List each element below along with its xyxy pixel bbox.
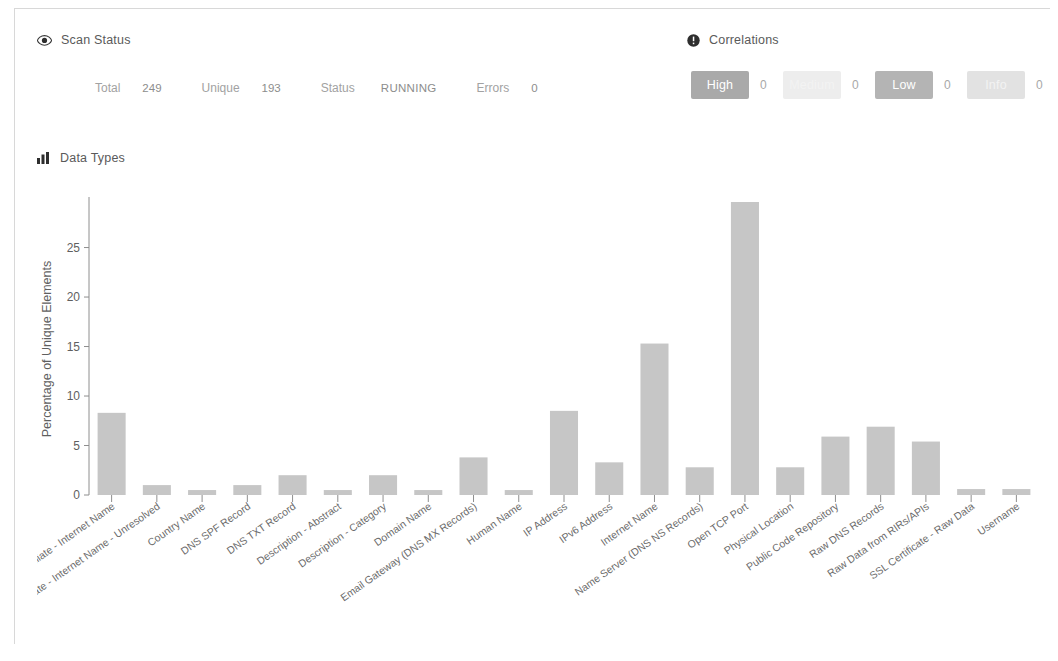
correlation-high-badge[interactable]: High bbox=[691, 71, 749, 99]
bar bbox=[414, 490, 442, 495]
correlations-badges: High 0 Medium 0 Low 0 Info 0 bbox=[691, 71, 1046, 99]
stat-errors-label: Errors bbox=[477, 81, 510, 95]
correlations-title: Correlations bbox=[709, 33, 779, 47]
bar bbox=[731, 202, 759, 495]
correlation-info[interactable]: Info 0 bbox=[967, 71, 1046, 99]
bar bbox=[776, 467, 804, 495]
stat-total-value: 249 bbox=[142, 82, 161, 94]
correlations-header: Correlations bbox=[687, 33, 779, 47]
bar bbox=[550, 411, 578, 495]
correlation-medium[interactable]: Medium 0 bbox=[783, 71, 862, 99]
bar-chart-svg: 0510152025Percentage of Unique ElementsA… bbox=[37, 189, 1043, 644]
summary-card: Scan Status Total 249 Unique 193 Status … bbox=[14, 8, 1050, 644]
y-tick-label: 5 bbox=[73, 439, 80, 453]
scan-status-title: Scan Status bbox=[61, 33, 131, 47]
bar bbox=[595, 462, 623, 495]
bar bbox=[369, 475, 397, 495]
correlation-low[interactable]: Low 0 bbox=[875, 71, 954, 99]
bar bbox=[867, 427, 895, 495]
y-axis-label: Percentage of Unique Elements bbox=[40, 261, 54, 438]
correlation-low-badge[interactable]: Low bbox=[875, 71, 933, 99]
bar bbox=[1002, 489, 1030, 495]
correlation-medium-badge[interactable]: Medium bbox=[783, 71, 841, 99]
exclamation-circle-icon bbox=[687, 34, 700, 47]
stat-total-label: Total bbox=[95, 81, 120, 95]
stat-status-label: Status bbox=[321, 81, 355, 95]
correlation-info-badge[interactable]: Info bbox=[967, 71, 1025, 99]
bar bbox=[143, 485, 171, 495]
correlation-high[interactable]: High 0 bbox=[691, 71, 770, 99]
bar bbox=[686, 467, 714, 495]
bar bbox=[98, 413, 126, 495]
data-types-header: Data Types bbox=[37, 151, 125, 165]
data-types-chart: 0510152025Percentage of Unique ElementsA… bbox=[37, 189, 1043, 644]
bar bbox=[957, 489, 985, 495]
bar bbox=[233, 485, 261, 495]
stat-status: Status RUNNING bbox=[321, 81, 437, 95]
y-tick-label: 25 bbox=[67, 241, 81, 255]
stat-unique-label: Unique bbox=[202, 81, 240, 95]
correlation-high-count: 0 bbox=[760, 78, 770, 92]
data-types-title: Data Types bbox=[60, 151, 125, 165]
bar bbox=[324, 490, 352, 495]
eye-icon bbox=[37, 35, 52, 46]
bar-chart-icon bbox=[37, 152, 51, 164]
y-tick-label: 15 bbox=[67, 340, 81, 354]
bar bbox=[912, 442, 940, 495]
scan-summary-page: Scan Status Total 249 Unique 193 Status … bbox=[0, 0, 1058, 661]
x-tick-label: Username bbox=[975, 500, 1022, 538]
stat-unique: Unique 193 bbox=[202, 81, 281, 95]
correlation-info-count: 0 bbox=[1036, 78, 1046, 92]
y-tick-label: 0 bbox=[73, 488, 80, 502]
stat-errors: Errors 0 bbox=[477, 81, 538, 95]
stat-total: Total 249 bbox=[95, 81, 162, 95]
stat-errors-value: 0 bbox=[531, 82, 537, 94]
bar bbox=[460, 457, 488, 495]
scan-status-header: Scan Status bbox=[37, 33, 131, 47]
bar bbox=[505, 490, 533, 495]
stat-status-value: RUNNING bbox=[381, 82, 437, 94]
bar bbox=[640, 344, 668, 495]
y-tick-label: 20 bbox=[67, 290, 81, 304]
bar bbox=[279, 475, 307, 495]
bar bbox=[821, 437, 849, 495]
scan-status-stats: Total 249 Unique 193 Status RUNNING Erro… bbox=[95, 81, 538, 95]
correlation-medium-count: 0 bbox=[852, 78, 862, 92]
y-tick-label: 10 bbox=[67, 389, 81, 403]
x-tick-label: Raw DNS Records bbox=[807, 500, 886, 560]
stat-unique-value: 193 bbox=[262, 82, 281, 94]
correlation-low-count: 0 bbox=[944, 78, 954, 92]
bar bbox=[188, 490, 216, 495]
